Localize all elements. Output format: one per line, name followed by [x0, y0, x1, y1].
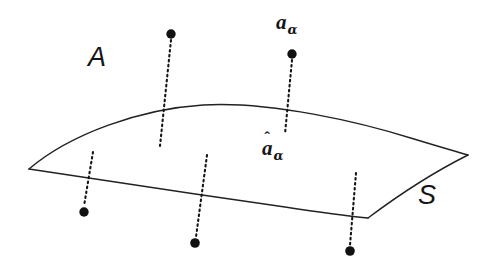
- endpoint-dot-5: [345, 246, 355, 256]
- surface-diagram-figure: A S aα aˆα: [0, 0, 493, 264]
- vector-label-ahat-subscript: α: [274, 148, 284, 163]
- normal-line-1: [160, 40, 171, 146]
- vector-label-ahat-alpha: aˆα: [262, 138, 284, 162]
- vector-label-a-base: a: [276, 12, 287, 33]
- endpoint-dot-4: [190, 238, 200, 248]
- endpoint-dot-2: [287, 49, 296, 58]
- normal-line-5: [350, 173, 356, 245]
- endpoint-dot-1: [166, 29, 175, 38]
- vector-label-a-alpha: aα: [276, 12, 298, 36]
- endpoint-dots-group: [79, 29, 355, 256]
- endpoint-dot-3: [79, 207, 88, 216]
- normal-line-2: [285, 60, 292, 134]
- vector-label-a-subscript: α: [288, 22, 298, 37]
- normal-lines-group: [84, 40, 356, 245]
- region-label-A: A: [88, 44, 107, 71]
- vector-label-ahat-base: aˆ: [262, 138, 273, 159]
- diagram-canvas: [0, 0, 493, 264]
- surface-patch: [29, 105, 468, 218]
- circumflex-accent-icon: ˆ: [264, 129, 270, 146]
- surface-label-S: S: [418, 182, 437, 209]
- surface-top-edge: [29, 105, 468, 169]
